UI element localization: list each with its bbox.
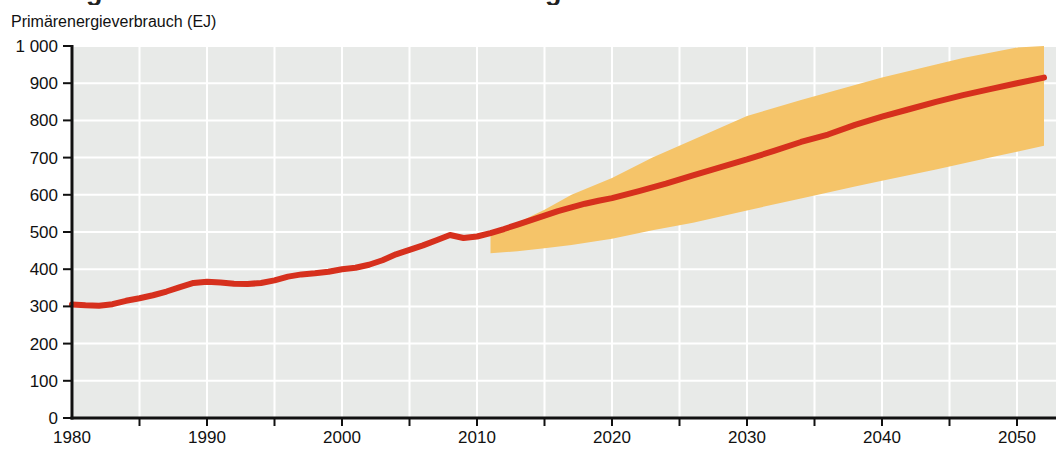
y-tick-label: 0	[49, 409, 58, 428]
y-tick-label: 400	[30, 260, 58, 279]
x-tick-label: 2050	[998, 428, 1036, 447]
y-tick-label: 600	[30, 186, 58, 205]
x-tick-label: 2040	[863, 428, 901, 447]
y-tick-label: 500	[30, 223, 58, 242]
y-tick-labels: 01002003004005006007008009001 000	[15, 37, 58, 428]
x-tick-label: 2000	[323, 428, 361, 447]
x-tick-label: 2030	[728, 428, 766, 447]
y-tick-label: 900	[30, 74, 58, 93]
y-tick-label: 1 000	[15, 37, 58, 56]
chart-canvas: 01002003004005006007008009001 0001980199…	[0, 0, 1056, 470]
y-tick-label: 800	[30, 111, 58, 130]
x-tick-label: 1990	[188, 428, 226, 447]
y-tick-label: 300	[30, 297, 58, 316]
y-tick-label: 700	[30, 149, 58, 168]
y-tick-label: 200	[30, 335, 58, 354]
x-tick-label: 1980	[53, 428, 91, 447]
x-tick-label: 2020	[593, 428, 631, 447]
x-tick-labels: 19801990200020102020203020402050	[53, 428, 1036, 447]
primary-energy-chart: g g Primärenergieverbrauch (EJ) 01002003…	[0, 0, 1056, 470]
x-tick-label: 2010	[458, 428, 496, 447]
y-tick-label: 100	[30, 372, 58, 391]
